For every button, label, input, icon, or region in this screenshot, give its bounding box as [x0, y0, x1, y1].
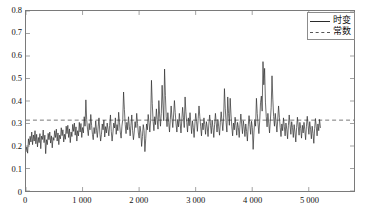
y-tick-label: 0.7 [0, 28, 22, 37]
chart-figure: 00.10.20.30.40.50.60.70.8 01 0002 0003 0… [0, 0, 366, 217]
x-tick-label: 1 000 [60, 196, 104, 205]
axis-ticks [26, 11, 354, 191]
legend-line-sample-solid [310, 17, 330, 25]
x-tick-label: 5 000 [287, 196, 331, 205]
x-tick-label: 4 000 [231, 196, 275, 205]
y-tick-label: 0.5 [0, 74, 22, 83]
legend-line-sample-dashed [310, 28, 330, 36]
x-tick-label: 0 [3, 196, 47, 205]
x-tick-label: 3 000 [174, 196, 218, 205]
plot-svg [26, 11, 354, 191]
legend-label-constant: 常数 [333, 27, 351, 36]
y-tick-label: 0.1 [0, 165, 22, 174]
y-tick-label: 0.8 [0, 6, 22, 15]
y-tick-label: 0.2 [0, 142, 22, 151]
timevarying-series-line [26, 62, 320, 154]
y-tick-label: 0 [0, 188, 22, 197]
legend-item-constant[interactable]: 常数 [310, 26, 351, 37]
legend-label-timevarying: 时变 [333, 16, 351, 25]
y-tick-label: 0.4 [0, 97, 22, 106]
plot-area [25, 10, 355, 192]
x-tick-label: 2 000 [117, 196, 161, 205]
y-tick-label: 0.6 [0, 51, 22, 60]
legend[interactable]: 时变 常数 [307, 12, 355, 40]
y-tick-label: 0.3 [0, 119, 22, 128]
legend-item-timevarying[interactable]: 时变 [310, 15, 351, 26]
